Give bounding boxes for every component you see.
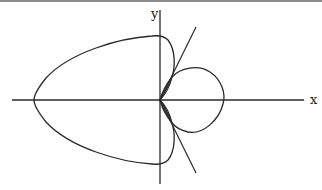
y-axis-label: y <box>150 6 159 21</box>
x-axis-label: x <box>310 92 318 107</box>
curve-diagram: y x <box>0 0 322 190</box>
